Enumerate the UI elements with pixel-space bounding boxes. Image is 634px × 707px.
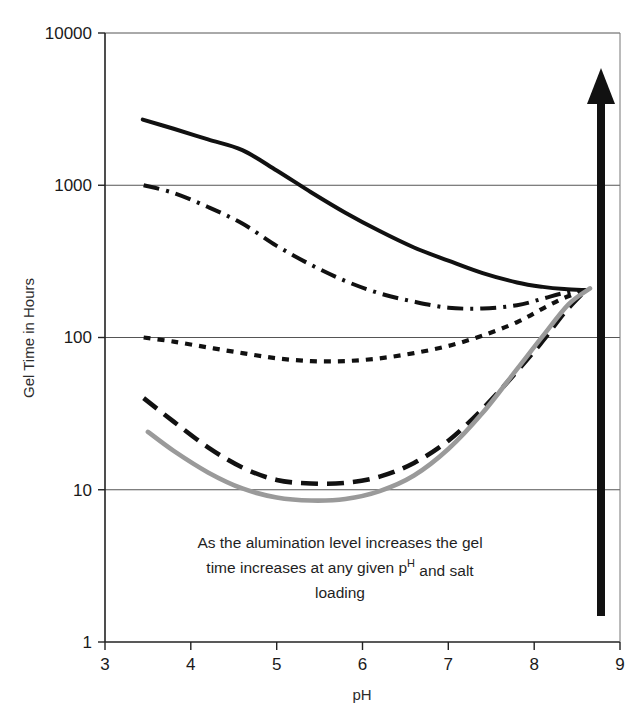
x-tick-label-7: 7 <box>444 655 453 674</box>
alumination-note-line2-post: and salt <box>415 562 474 579</box>
alumination-note-line2: time increases at any given pH and salt <box>206 557 474 579</box>
arrow-head-icon <box>587 68 615 104</box>
alumination-note-line3: loading <box>315 584 365 601</box>
x-tick-label-9: 9 <box>615 655 624 674</box>
series-line-alumination-level-3 <box>144 290 586 361</box>
y-tick-label-1: 1 <box>83 633 92 652</box>
y-tick-label-10000: 10000 <box>45 24 92 43</box>
x-tick-label-3: 3 <box>100 655 109 674</box>
increasing-alumination-arrow <box>587 68 615 616</box>
x-tick-label-8: 8 <box>529 655 538 674</box>
alumination-note-superscript-h: H <box>407 557 415 569</box>
y-tick-label-100: 100 <box>64 328 92 347</box>
alumination-note-line2-pre: time increases at any given p <box>206 559 407 576</box>
alumination-note-line1: As the alumination level increases the g… <box>197 534 482 551</box>
y-tick-labels: 10000 1000 100 10 1 <box>45 24 92 652</box>
series-line-alumination-level-4 <box>144 185 586 308</box>
gel-time-vs-ph-chart: 10000 1000 100 10 1 3 4 5 6 7 8 9 pH Gel… <box>0 0 634 707</box>
x-tick-label-5: 5 <box>272 655 281 674</box>
y-tick-label-1000: 1000 <box>54 176 92 195</box>
x-axis-ticks <box>105 642 620 650</box>
y-tick-label-10: 10 <box>73 481 92 500</box>
series-line-alumination-level-5-highest <box>143 120 586 290</box>
series-layer <box>143 120 590 501</box>
series-line-alumination-level-1-lowest <box>148 288 590 500</box>
chart-canvas: 10000 1000 100 10 1 3 4 5 6 7 8 9 pH Gel… <box>0 0 634 707</box>
alumination-note: As the alumination level increases the g… <box>197 534 482 601</box>
y-axis-ticks <box>98 33 105 642</box>
x-tick-label-4: 4 <box>186 655 195 674</box>
x-tick-label-6: 6 <box>358 655 367 674</box>
grid-lines <box>105 33 620 490</box>
x-tick-labels: 3 4 5 6 7 8 9 <box>100 655 624 674</box>
x-axis-title: pH <box>352 686 371 703</box>
y-axis-title: Gel Time in Hours <box>20 278 37 398</box>
